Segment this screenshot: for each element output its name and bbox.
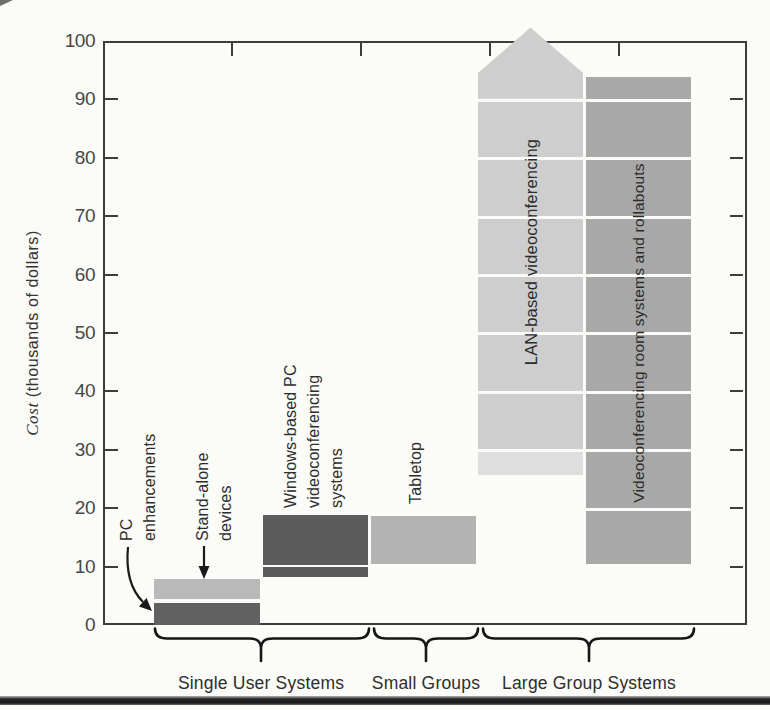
group-brace — [483, 629, 694, 662]
top-tick — [618, 43, 620, 56]
y-tick-right — [730, 566, 743, 568]
bar-segment-videoconferencing-room-systems — [586, 77, 691, 99]
y-tick-right — [730, 157, 743, 159]
y-axis-title-cost: Cost — [23, 402, 42, 436]
y-tick-right — [730, 274, 743, 276]
y-tick-label: 70 — [53, 205, 95, 227]
bar-label-stand-alone-devices: Stand-alonedevices — [191, 453, 237, 542]
y-tick-right — [730, 390, 743, 392]
bar-segment-pc-enhancements — [154, 603, 260, 625]
y-tick-label: 100 — [53, 30, 95, 52]
y-tick-left — [105, 390, 118, 392]
scan-corner-mark — [0, 0, 13, 6]
bar-label-line: Tabletop — [404, 442, 427, 504]
bar-label-lan-based-videoconferencing: LAN-based videoconferencing — [522, 138, 541, 364]
y-tick-right — [730, 332, 743, 334]
y-tick-right — [730, 98, 743, 100]
bar-label-line: Windows-based PC — [279, 364, 302, 508]
bar-label-videoconferencing-room-systems: Videoconferencing room systems and rolla… — [630, 163, 648, 503]
group-label: Single User Systems — [178, 673, 344, 693]
y-tick-label: 40 — [53, 380, 95, 402]
y-tick-right — [730, 449, 743, 451]
bar-label-windows-pc-videoconferencing: Windows-based PCvideoconferencingsystems — [279, 364, 348, 508]
bar-segment-videoconferencing-room-systems — [586, 102, 691, 157]
y-tick-left — [105, 157, 118, 159]
y-tick-right — [730, 215, 743, 217]
bar-segment-stand-alone-devices — [154, 579, 260, 599]
y-tick-label: 0 — [53, 614, 95, 636]
group-brace — [374, 629, 478, 662]
bar-label-line: enhancements — [138, 434, 161, 541]
bar-segment-windows-pc-videoconferencing — [263, 567, 368, 576]
y-tick-left — [105, 274, 118, 276]
y-tick-label: 50 — [53, 322, 95, 344]
group-brace — [155, 629, 369, 662]
y-axis-title-units: (thousands of dollars) — [24, 230, 41, 402]
bar-segment-arrow-top-lan-based-videoconferencing — [478, 28, 583, 99]
top-tick — [360, 43, 362, 56]
y-tick-left — [105, 332, 118, 334]
bar-label-line: PC — [115, 434, 138, 541]
group-label: Large Group Systems — [502, 673, 676, 693]
bar-label-line: videoconferencing — [302, 364, 325, 508]
top-tick — [489, 43, 491, 56]
y-tick-label: 60 — [53, 264, 95, 286]
top-tick — [231, 43, 233, 56]
bar-segment-lan-based-videoconferencing — [478, 394, 583, 449]
bar-label-line: systems — [325, 364, 348, 508]
y-tick-left — [105, 98, 118, 100]
bar-label-tabletop: Tabletop — [404, 442, 427, 504]
figure-page: Cost (thousands of dollars) Single User … — [0, 0, 770, 710]
bar-label-pc-enhancements: PCenhancements — [115, 434, 161, 541]
y-tick-left — [105, 566, 118, 568]
y-tick-label: 90 — [53, 88, 95, 110]
y-axis-title: Cost (thousands of dollars) — [23, 230, 43, 436]
y-tick-left — [105, 215, 118, 217]
bar-segment-windows-pc-videoconferencing — [263, 515, 368, 565]
bar-segment-videoconferencing-room-systems — [586, 511, 691, 564]
page-rule — [0, 696, 770, 705]
y-tick-label: 30 — [53, 439, 95, 461]
y-tick-label: 80 — [53, 147, 95, 169]
group-label: Small Groups — [372, 673, 480, 693]
y-tick-right — [730, 507, 743, 509]
bar-label-line: Stand-alone — [191, 453, 214, 542]
bar-segment-lan-based-videoconferencing — [478, 452, 583, 476]
bar-label-line: devices — [214, 453, 237, 542]
y-tick-label: 10 — [53, 556, 95, 578]
bar-segment-tabletop — [371, 516, 476, 564]
y-tick-label: 20 — [53, 497, 95, 519]
